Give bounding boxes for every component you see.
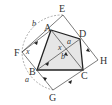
label-h: H <box>100 55 107 66</box>
label-b: B <box>29 66 36 77</box>
label-e: E <box>59 3 65 14</box>
var-x-mid: x <box>57 43 62 52</box>
var-b-mid: b <box>61 52 65 61</box>
label-f: F <box>14 47 20 58</box>
var-b-arc: b <box>32 19 36 28</box>
geometry-diagram: E A D F H B C G b x a x b a <box>0 0 112 105</box>
var-a-arc: a <box>25 75 29 84</box>
label-g: G <box>49 92 56 103</box>
var-a-top: a <box>67 37 71 46</box>
var-x-f: x <box>25 47 30 56</box>
label-c: C <box>81 70 88 81</box>
label-a: A <box>44 22 52 33</box>
label-d: D <box>79 28 86 39</box>
